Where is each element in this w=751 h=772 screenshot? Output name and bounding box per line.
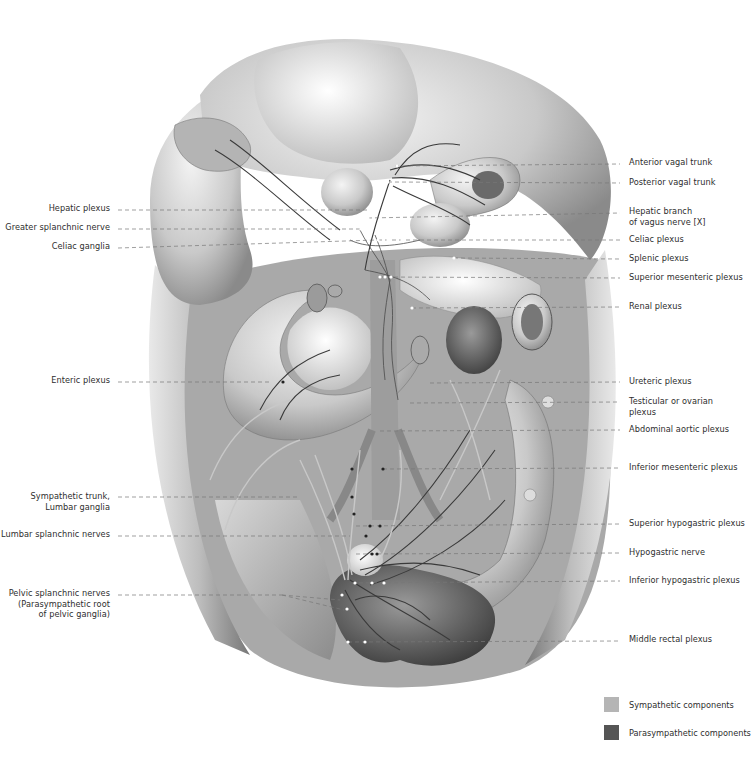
leader-posterior-vagal	[388, 182, 620, 183]
label-renal-plexus: Renal plexus	[629, 301, 682, 312]
label-line: Sympathetic trunk,	[31, 491, 110, 502]
label-testicular-ovarian-plexus: Testicular or ovarian plexus	[629, 396, 713, 417]
leader-celiac-ganglia	[118, 240, 378, 248]
label-inferior-hypogastric-plexus: Inferior hypogastric plexus	[629, 575, 740, 586]
label-enteric-plexus: Enteric plexus	[51, 375, 110, 386]
label-sympathetic-trunk: Sympathetic trunk, Lumbar ganglia	[31, 491, 110, 512]
label-hepatic-branch-vagus: Hepatic branch of vagus nerve [X]	[629, 206, 706, 227]
label-middle-rectal-plexus: Middle rectal plexus	[629, 634, 712, 645]
label-splenic-plexus: Splenic plexus	[629, 253, 689, 264]
label-line: (Parasympathetic root	[9, 599, 110, 610]
leader-superior-hypogastric	[356, 524, 620, 526]
label-lumbar-splanchnic-nerves: Lumbar splanchnic nerves	[1, 529, 110, 540]
label-line: Testicular or ovarian	[629, 396, 713, 407]
label-hepatic-plexus: Hepatic plexus	[49, 203, 110, 214]
leader-renal-plexus	[412, 307, 620, 308]
legend-item-parasympathetic: Parasympathetic components	[604, 725, 751, 740]
label-superior-hypogastric-plexus: Superior hypogastric plexus	[629, 518, 745, 529]
parasympathetic-swatch	[604, 725, 619, 740]
label-abdominal-aortic-plexus: Abdominal aortic plexus	[629, 424, 729, 435]
leader-dots	[281, 164, 455, 643]
label-line: Pelvic splanchnic nerves	[9, 588, 110, 599]
leader-anterior-vagal	[395, 164, 620, 166]
label-hypogastric-nerve: Hypogastric nerve	[629, 547, 705, 558]
label-ureteric-plexus: Ureteric plexus	[629, 376, 692, 387]
anatomical-figure: Hepatic plexus Greater splanchnic nerve …	[0, 0, 751, 772]
leader-superior-mesenteric	[380, 277, 620, 278]
legend-label: Parasympathetic components	[629, 728, 751, 738]
leader-middle-rectal	[348, 641, 620, 642]
leader-testicular-ovarian	[410, 402, 620, 403]
label-posterior-vagal-trunk: Posterior vagal trunk	[629, 177, 716, 188]
leader-hypogastric-nerve	[356, 553, 620, 554]
label-line: of vagus nerve [X]	[629, 217, 706, 228]
label-anterior-vagal-trunk: Anterior vagal trunk	[629, 157, 712, 168]
leader-pelvic-splanchnic-branch	[282, 595, 340, 600]
label-pelvic-splanchnic-nerves: Pelvic splanchnic nerves (Parasympatheti…	[9, 588, 110, 620]
label-inferior-mesenteric-plexus: Inferior mesenteric plexus	[629, 462, 738, 473]
label-line: plexus	[629, 407, 713, 418]
label-celiac-plexus: Celiac plexus	[629, 234, 684, 245]
leader-pelvic-splanchnic-branch	[282, 595, 344, 610]
legend-item-sympathetic: Sympathetic components	[604, 697, 734, 712]
label-celiac-ganglia: Celiac ganglia	[52, 241, 110, 252]
leader-inferior-hypogastric	[352, 581, 620, 583]
label-superior-mesenteric-plexus: Superior mesenteric plexus	[629, 272, 743, 283]
leader-hepatic-branch-vagus	[368, 213, 620, 218]
leader-ureteric-plexus	[430, 382, 620, 383]
label-line: Lumbar ganglia	[31, 502, 110, 513]
legend-label: Sympathetic components	[629, 700, 734, 710]
leader-inferior-mesenteric	[383, 468, 620, 469]
leader-splenic-plexus	[454, 258, 620, 259]
sympathetic-swatch	[604, 697, 619, 712]
leader-abdominal-aortic	[380, 430, 620, 431]
label-line: Hepatic branch	[629, 206, 706, 217]
label-line: of pelvic ganglia)	[9, 609, 110, 620]
label-greater-splanchnic-nerve: Greater splanchnic nerve	[5, 222, 110, 233]
